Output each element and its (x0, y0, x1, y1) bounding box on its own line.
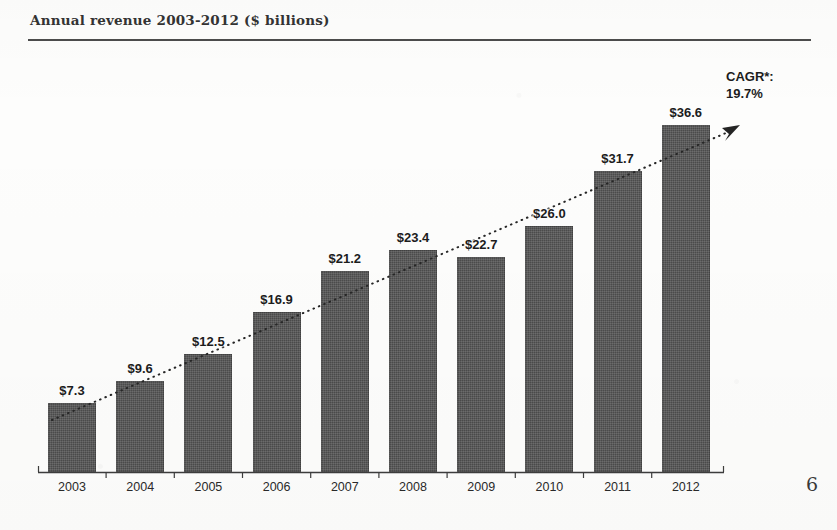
bar-value-label-2005: $12.5 (174, 334, 242, 349)
cagr-annotation: CAGR*: 19.7% (726, 68, 774, 102)
page-number: 6 (806, 473, 818, 495)
bar-value-label-2012: $36.6 (652, 105, 720, 120)
slide-page: Annual revenue 2003-2012 ($ billions) $7… (0, 0, 837, 530)
bar-value-label-2007: $21.2 (311, 251, 379, 266)
bar-value-label-2003: $7.3 (38, 383, 106, 398)
bar-value-label-2008: $23.4 (379, 230, 447, 245)
cagr-label: CAGR*: (726, 68, 774, 85)
bar-chart: $7.32003$9.62004$12.52005$16.92006$21.22… (0, 0, 837, 530)
bar-value-label-2011: $31.7 (584, 151, 652, 166)
bar-value-label-2010: $26.0 (515, 206, 583, 221)
bar-value-label-2006: $16.9 (243, 292, 311, 307)
trendline (0, 0, 837, 530)
cagr-value: 19.7% (726, 85, 774, 102)
bar-value-label-2004: $9.6 (106, 361, 174, 376)
bar-value-label-2009: $22.7 (447, 237, 515, 252)
